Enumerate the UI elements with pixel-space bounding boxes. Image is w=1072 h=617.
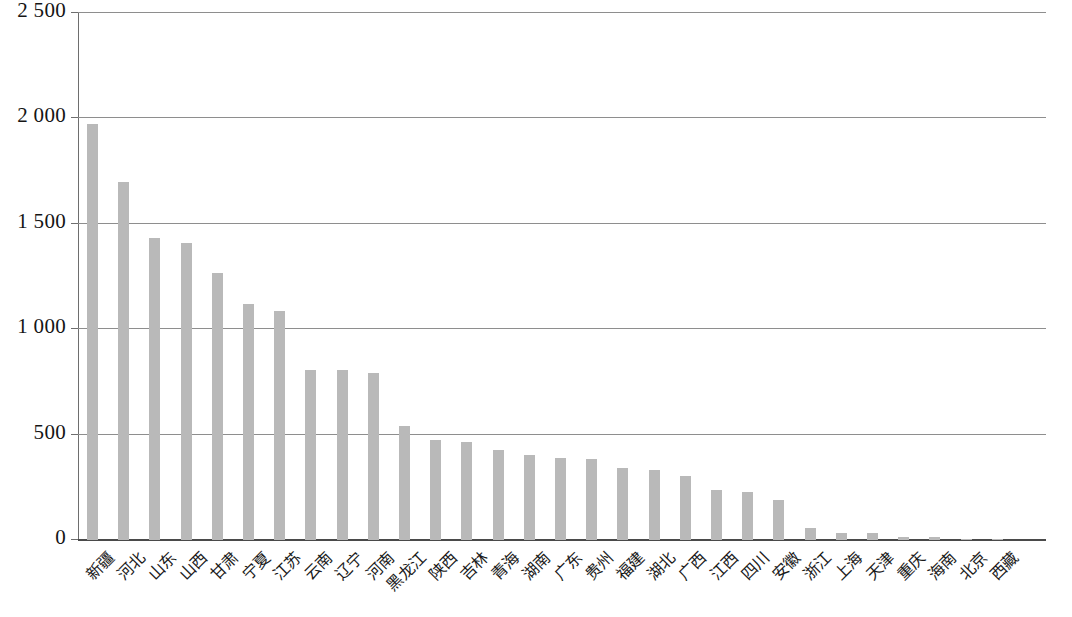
bar[interactable] [586,459,597,540]
bar[interactable] [867,533,878,540]
y-axis-tick-label: 1 500 [0,209,66,234]
x-axis-labels: 新疆河北山东山西甘肃宁夏江苏云南辽宁河南黑龙江陕西吉林青海湖南广东贵州福建湖北广… [0,541,1072,617]
bar[interactable] [461,442,472,540]
x-axis-tick-label: 西藏 [984,545,1024,585]
bar[interactable] [87,124,98,540]
y-axis-tick [71,539,78,540]
bar[interactable] [992,539,1003,540]
bar[interactable] [680,476,691,540]
bar[interactable] [929,537,940,540]
y-axis-tick [71,434,78,435]
bar[interactable] [430,440,441,540]
bar[interactable] [243,304,254,540]
bar[interactable] [836,533,847,540]
bar[interactable] [493,450,504,540]
y-axis-tick [71,117,78,118]
bar[interactable] [399,426,410,540]
bar[interactable] [149,238,160,540]
bar[interactable] [337,370,348,540]
y-axis-tick [71,328,78,329]
bar[interactable] [649,470,660,540]
y-axis-tick-label: 1 000 [0,314,66,339]
bar[interactable] [773,500,784,540]
y-axis-tick-label: 500 [0,420,66,445]
bar[interactable] [617,468,628,540]
bar[interactable] [898,537,909,540]
bar-series [78,12,1046,540]
bar[interactable] [368,373,379,540]
bar[interactable] [524,455,535,540]
bar[interactable] [118,182,129,540]
bar[interactable] [274,311,285,540]
y-axis-tick [71,223,78,224]
bar[interactable] [181,243,192,540]
bar[interactable] [212,273,223,540]
bar[interactable] [305,370,316,540]
chart-page: 2 5002 0001 5001 0005000 新疆河北山东山西甘肃宁夏江苏云… [0,0,1072,617]
bar[interactable] [961,539,972,540]
bar[interactable] [742,492,753,540]
y-axis-tick-label: 2 500 [0,0,66,23]
y-axis-tick-label: 2 000 [0,103,66,128]
bar[interactable] [555,458,566,540]
bar[interactable] [805,528,816,540]
y-axis-tick [71,12,78,13]
bar[interactable] [711,490,722,540]
